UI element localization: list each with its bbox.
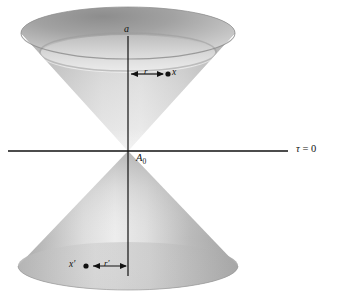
tau-value: 0 — [311, 143, 316, 154]
light-cone-figure: • x ============ --> ============ --> a … — [0, 0, 340, 300]
radius-label-upper: r — [144, 67, 148, 76]
equals-symbol: = — [300, 143, 311, 154]
point-marker-x — [165, 71, 170, 76]
point-label-x-prime: x′ — [69, 260, 75, 270]
horizontal-axis-label: τ = 0 — [296, 144, 316, 155]
radius-label-lower: r′ — [104, 259, 109, 268]
origin-label: A0 — [136, 153, 146, 166]
vertical-axis-label: a — [124, 24, 129, 34]
cone-illustration: • x ============ --> ============ --> — [0, 0, 340, 300]
origin-label-subscript: 0 — [142, 157, 146, 166]
point-marker-x-prime — [83, 263, 88, 268]
point-label-x: x — [172, 68, 176, 78]
